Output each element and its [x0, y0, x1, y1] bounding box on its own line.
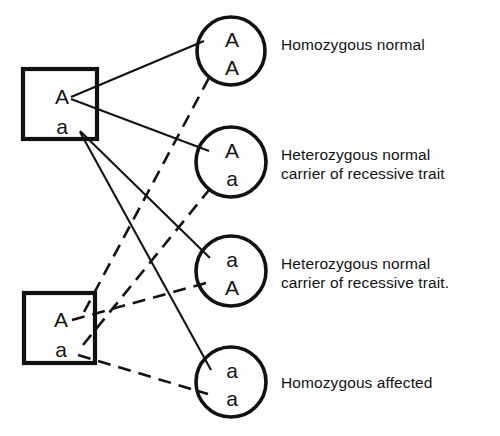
- offspring4-allele-top: a: [226, 359, 238, 382]
- offspring1-allele-bottom: A: [225, 56, 239, 79]
- link-bottom-a-to-offspring2: [83, 190, 209, 345]
- parent-top-allele-A: A: [55, 85, 69, 108]
- offspring3-allele-top: a: [226, 248, 238, 271]
- offspring-label-4: Homozygous affected: [281, 373, 433, 392]
- offspring1-allele-top: A: [225, 28, 239, 51]
- offspring3-allele-bottom: A: [225, 276, 239, 299]
- offspring-label-1-line-1: Homozygous normal: [281, 35, 425, 54]
- offspring-label-2-line-2: carrier of recessive trait: [281, 164, 445, 183]
- inheritance-diagram: A a A a A A A a a A a a Homozygous norma…: [0, 0, 500, 436]
- parent-bottom-allele-a: a: [55, 338, 67, 361]
- offspring2-allele-top: A: [225, 139, 239, 162]
- punnett-cross-svg: A a A a A A A a a A a a: [0, 0, 500, 436]
- parent-bottom-allele-A: A: [54, 308, 68, 331]
- offspring-label-3-line-2: carrier of recessive trait.: [281, 273, 449, 292]
- link-top-a-to-offspring3: [80, 131, 210, 258]
- link-bottom-A-to-offspring3: [72, 283, 206, 320]
- link-top-a-to-offspring4: [80, 132, 211, 370]
- dashed-connector-group: [72, 76, 210, 394]
- offspring-label-2-line-1: Heterozygous normal: [281, 145, 445, 164]
- offspring4-allele-bottom: a: [226, 387, 238, 410]
- offspring2-allele-bottom: a: [226, 167, 238, 190]
- link-bottom-a-to-offspring4: [78, 355, 208, 394]
- offspring-label-3: Heterozygous normal carrier of recessive…: [281, 254, 449, 292]
- offspring-label-2: Heterozygous normal carrier of recessive…: [281, 145, 445, 183]
- offspring-label-3-line-1: Heterozygous normal: [281, 254, 449, 273]
- offspring-label-4-line-1: Homozygous affected: [281, 373, 433, 392]
- solid-connector-group: [71, 41, 211, 370]
- offspring-label-1: Homozygous normal: [281, 35, 425, 54]
- parent-top-allele-a: a: [56, 115, 68, 138]
